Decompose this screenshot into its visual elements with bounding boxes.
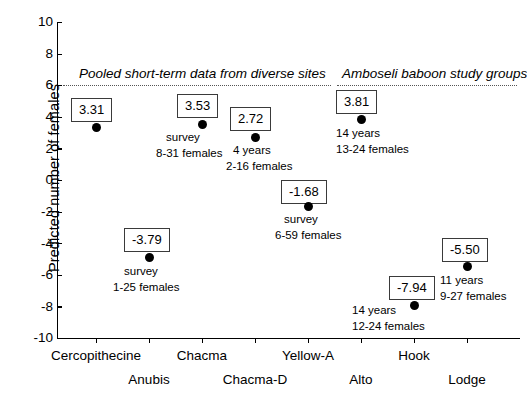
reference-line-right: [337, 85, 517, 86]
note-anubis-line2: 1-25 females: [113, 281, 179, 293]
x-tick-mark: [467, 338, 468, 343]
note-alto-line1: 14 years: [336, 127, 380, 139]
data-point-cercopithecine: [92, 123, 101, 132]
data-point-yellow-a: [304, 202, 313, 211]
note-chacma-line2: 8-31 females: [156, 147, 222, 159]
x-category-anubis: Anubis: [128, 372, 169, 387]
y-tick-4: 4: [0, 110, 53, 124]
x-tick-mark: [96, 338, 97, 343]
note-chacma-d-line2: 2-16 females: [226, 160, 292, 172]
note-alto-line2: 13-24 females: [336, 143, 409, 155]
x-tick-mark: [414, 338, 415, 343]
reference-line-left: [63, 85, 331, 86]
value-box-alto: 3.81: [336, 90, 377, 114]
value-box-hook: -7.94: [389, 276, 435, 300]
value-box-cercopithecine: 3.31: [71, 98, 112, 122]
y-tick-2: 2: [0, 142, 53, 156]
data-point-anubis: [145, 253, 154, 262]
x-tick-mark: [202, 338, 203, 343]
y-tick-neg8: -8: [0, 300, 53, 314]
group-header-amboseli: Amboseli baboon study groups: [342, 66, 527, 81]
note-chacma-line1: survey: [166, 131, 200, 143]
x-category-chacma: Chacma: [177, 348, 227, 363]
x-category-chacma-d: Chacma-D: [223, 372, 288, 387]
value-box-anubis: -3.79: [124, 228, 170, 252]
x-tick-mark: [308, 338, 309, 343]
value-box-chacma: 3.53: [177, 94, 218, 118]
data-point-hook: [410, 301, 419, 310]
x-category-alto: Alto: [349, 372, 372, 387]
data-point-chacma: [198, 120, 207, 129]
data-point-alto: [357, 115, 366, 124]
data-point-lodge: [463, 262, 472, 271]
y-tick-10: 10: [0, 15, 53, 29]
note-lodge-line2: 9-27 females: [440, 290, 506, 302]
note-yellow-a-line1: survey: [284, 213, 318, 225]
y-tick-neg4: -4: [0, 237, 53, 251]
data-point-chacma-d: [251, 133, 260, 142]
y-tick-neg10: -10: [0, 331, 53, 345]
note-anubis-line1: survey: [124, 265, 158, 277]
value-box-yellow-a: -1.68: [281, 180, 327, 204]
value-box-chacma-d: 2.72: [230, 107, 271, 131]
note-chacma-d-line1: 4 years: [233, 144, 271, 156]
y-tick-neg2: -2: [0, 205, 53, 219]
note-hook-line1: 14 years: [352, 304, 396, 316]
value-box-lodge: -5.50: [442, 238, 488, 262]
x-tick-mark: [361, 338, 362, 343]
x-tick-mark: [255, 338, 256, 343]
y-axis-line: [57, 22, 58, 339]
note-hook-line2: 12-24 females: [352, 320, 425, 332]
x-category-lodge: Lodge: [448, 372, 486, 387]
y-tick-6: 6: [0, 78, 53, 92]
note-yellow-a-line2: 6-59 females: [275, 229, 341, 241]
x-category-hook: Hook: [398, 348, 430, 363]
x-category-cercopithecine: Cercopithecine: [51, 348, 141, 363]
group-header-pooled: Pooled short-term data from diverse site…: [79, 66, 326, 81]
note-lodge-line1: 11 years: [440, 274, 483, 286]
x-tick-mark: [149, 338, 150, 343]
y-tick-0: 0: [0, 173, 53, 187]
x-category-yellow-a: Yellow-A: [282, 348, 334, 363]
y-tick-8: 8: [0, 47, 53, 61]
y-tick-neg6: -6: [0, 268, 53, 282]
x-axis-line: [57, 338, 520, 339]
